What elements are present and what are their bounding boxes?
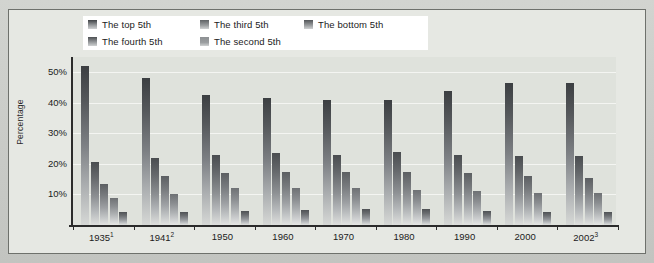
bar-2002-series-0[interactable] [566, 83, 574, 225]
bar-group-1970 [323, 57, 369, 225]
bar-1960-series-4[interactable] [301, 210, 309, 225]
bar-1935-series-1[interactable] [91, 162, 99, 225]
legend-item-1[interactable]: The third 5th [195, 19, 299, 30]
bar-1960-series-2[interactable] [282, 172, 290, 225]
bar-group-1935 [81, 57, 127, 225]
legend-item-0[interactable]: The top 5th [83, 19, 195, 30]
bar-1950-series-4[interactable] [241, 211, 249, 225]
x-axis-label-footnote: 3 [594, 231, 598, 238]
bar-1950-series-1[interactable] [212, 155, 220, 225]
bar-1935-series-4[interactable] [119, 212, 127, 225]
bar-1941-series-2[interactable] [161, 176, 169, 225]
x-axis-label-1950: 1950 [192, 231, 253, 242]
bar-group-1950 [202, 57, 248, 225]
y-axis-title: Percentage [15, 83, 25, 161]
bar-1960-series-1[interactable] [272, 153, 280, 225]
x-axis-label-1935: 19351 [71, 231, 132, 243]
bar-1980-series-2[interactable] [403, 172, 411, 225]
x-axis-label-1990: 1990 [434, 231, 495, 242]
y-axis-tick-label: 40% [33, 97, 67, 108]
bar-1941-series-1[interactable] [151, 158, 159, 225]
bar-1935-series-2[interactable] [100, 184, 108, 225]
legend-swatch-icon [88, 20, 97, 29]
bar-group-2000 [505, 57, 551, 225]
bar-1990-series-3[interactable] [473, 191, 481, 225]
bar-2000-series-3[interactable] [534, 193, 542, 225]
legend-item-2[interactable]: The bottom 5th [299, 19, 428, 30]
legend-item-3[interactable]: The fourth 5th [83, 36, 195, 47]
bar-group-1980 [384, 57, 430, 225]
x-axis-tick [436, 225, 437, 230]
bar-2000-series-2[interactable] [524, 176, 532, 225]
bar-2002-series-4[interactable] [604, 212, 612, 225]
legend-label: The third 5th [214, 19, 269, 30]
legend-swatch-icon [88, 37, 97, 46]
legend-swatch-icon [200, 37, 209, 46]
bar-group-2002 [566, 57, 612, 225]
x-axis-label-2000: 2000 [495, 231, 556, 242]
bar-1990-series-1[interactable] [454, 155, 462, 225]
y-axis-tick-label: 30% [33, 127, 67, 138]
plot-area [71, 57, 616, 225]
bar-2000-series-0[interactable] [505, 83, 513, 225]
x-axis-tick [376, 225, 377, 230]
bar-1950-series-0[interactable] [202, 95, 210, 225]
x-axis-tick [557, 225, 558, 230]
x-axis-tick [134, 225, 135, 230]
bar-1935-series-0[interactable] [81, 66, 89, 225]
bar-1990-series-4[interactable] [483, 211, 491, 225]
bar-1941-series-3[interactable] [170, 194, 178, 225]
chart-legend: The top 5thThe third 5thThe bottom 5thTh… [83, 16, 428, 50]
bar-1980-series-1[interactable] [393, 152, 401, 225]
bar-group-1990 [444, 57, 490, 225]
bar-2000-series-4[interactable] [543, 212, 551, 225]
bar-2002-series-1[interactable] [575, 156, 583, 225]
bar-1935-series-3[interactable] [110, 198, 118, 225]
bar-1970-series-1[interactable] [333, 155, 341, 225]
x-axis-label-1960: 1960 [253, 231, 314, 242]
bar-1941-series-0[interactable] [142, 78, 150, 225]
bar-2000-series-1[interactable] [515, 156, 523, 225]
y-axis-tick-label: 50% [33, 66, 67, 77]
x-axis-tick [73, 225, 74, 230]
bar-1970-series-2[interactable] [342, 172, 350, 225]
x-axis-label-2002: 20023 [555, 231, 616, 243]
legend-swatch-icon [304, 20, 313, 29]
x-axis-label-1941: 19412 [132, 231, 193, 243]
legend-label: The fourth 5th [102, 36, 163, 47]
y-axis-tick-label: 10% [33, 188, 67, 199]
x-axis-tick [618, 225, 619, 230]
bar-1980-series-3[interactable] [413, 190, 421, 225]
bar-2002-series-2[interactable] [585, 178, 593, 225]
x-axis-tick [315, 225, 316, 230]
bar-1960-series-0[interactable] [263, 98, 271, 225]
bar-1970-series-3[interactable] [352, 188, 360, 225]
bar-1990-series-0[interactable] [444, 91, 452, 225]
legend-item-4[interactable]: The second 5th [195, 36, 299, 47]
bar-1980-series-0[interactable] [384, 100, 392, 225]
x-axis-tick [497, 225, 498, 230]
bar-1970-series-0[interactable] [323, 100, 331, 225]
bar-1950-series-3[interactable] [231, 188, 239, 225]
x-axis-label-footnote: 1 [110, 231, 114, 238]
bar-1941-series-4[interactable] [180, 212, 188, 225]
bar-group-1941 [142, 57, 188, 225]
x-axis-label-footnote: 2 [171, 231, 175, 238]
figure-frame: Percentage 50%40%30%20%10% The top 5thTh… [0, 0, 654, 263]
legend-label: The second 5th [214, 36, 281, 47]
bar-1950-series-2[interactable] [221, 173, 229, 225]
legend-swatch-icon [200, 20, 209, 29]
bar-2002-series-3[interactable] [594, 193, 602, 225]
x-axis-tick [194, 225, 195, 230]
x-axis-tick [255, 225, 256, 230]
x-axis-label-1980: 1980 [374, 231, 435, 242]
bar-1970-series-4[interactable] [362, 209, 370, 225]
bar-1960-series-3[interactable] [292, 188, 300, 225]
x-axis-line [69, 225, 618, 227]
y-axis-tick-label: 20% [33, 158, 67, 169]
bar-1980-series-4[interactable] [422, 209, 430, 225]
y-axis-tick-labels: 50%40%30%20%10% [27, 57, 67, 225]
legend-label: The top 5th [102, 19, 151, 30]
bar-group-1960 [263, 57, 309, 225]
bar-1990-series-2[interactable] [464, 173, 472, 225]
